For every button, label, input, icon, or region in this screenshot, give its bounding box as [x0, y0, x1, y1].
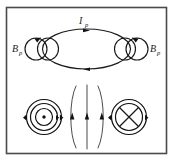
- field-label-right-symbol: B: [150, 43, 156, 54]
- diagram-canvas: I p B p B p: [0, 0, 173, 161]
- current-label-symbol: I: [78, 15, 83, 26]
- current-out-of-page-dot-icon: [42, 115, 45, 118]
- physics-diagram-figure: I p B p B p: [0, 0, 173, 161]
- field-label-left-symbol: B: [12, 43, 18, 54]
